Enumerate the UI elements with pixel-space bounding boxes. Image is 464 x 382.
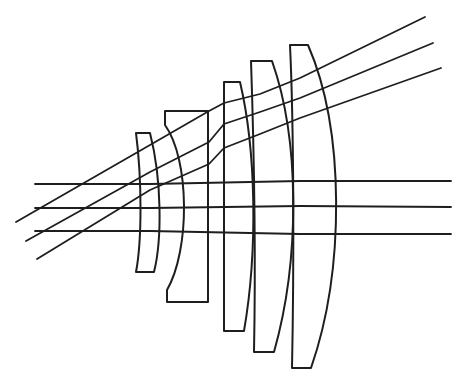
ray-axial-3 xyxy=(35,231,451,234)
ray-axial-2 xyxy=(35,206,451,208)
ray-oblique-2 xyxy=(26,43,433,241)
lens-diagram: Lens system ray-trace diagram xyxy=(0,0,464,382)
ray-paths xyxy=(16,17,451,259)
ray-oblique-1 xyxy=(16,17,425,222)
diagram-canvas xyxy=(0,0,464,382)
ray-axial-1 xyxy=(35,181,451,184)
lens-1 xyxy=(136,133,160,272)
